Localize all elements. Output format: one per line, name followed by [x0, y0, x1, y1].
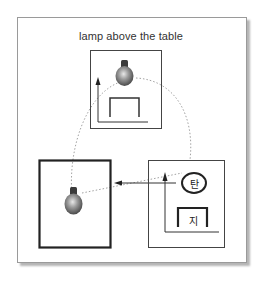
table-label-text: 지 [186, 213, 200, 228]
dotted-arc-top-to-right [136, 78, 191, 160]
table-icon [110, 98, 139, 117]
circle-label-text: 탄 [186, 176, 202, 191]
dotted-arc-left-to-top [71, 82, 120, 195]
diagram-canvas [0, 0, 265, 283]
right-panel [149, 161, 225, 248]
dotted-paths [71, 78, 190, 195]
lamp-icon [116, 60, 134, 86]
lamp-icon [65, 187, 83, 215]
left-panel [40, 161, 111, 248]
top-panel [91, 51, 162, 129]
